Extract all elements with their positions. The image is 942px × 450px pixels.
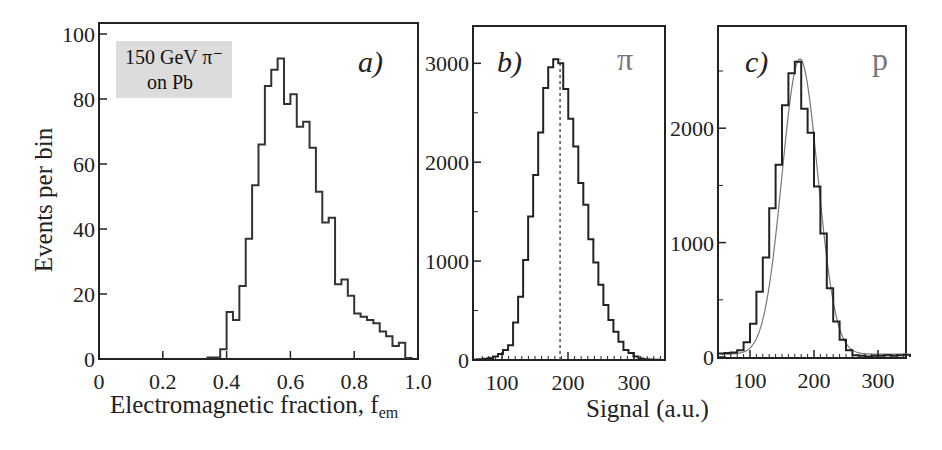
- svg-text:2000: 2000: [425, 150, 469, 175]
- svg-text:2000: 2000: [670, 116, 714, 141]
- annotation-line-2: on Pb: [147, 71, 193, 93]
- panel-b-chart: b) π 1002003000100020003000: [425, 26, 665, 395]
- svg-text:3000: 3000: [425, 51, 469, 76]
- panel-b-particle-label: π: [617, 41, 633, 77]
- svg-text:1000: 1000: [670, 231, 714, 256]
- svg-text:100: 100: [734, 368, 767, 393]
- svg-text:300: 300: [862, 368, 895, 393]
- svg-text:0: 0: [84, 347, 95, 372]
- figure: 150 GeV π⁻ on Pb a) 00.20.40.60.81.00204…: [0, 0, 942, 450]
- svg-text:100: 100: [62, 22, 95, 47]
- svg-text:300: 300: [618, 370, 651, 395]
- svg-text:1.0: 1.0: [404, 369, 432, 394]
- y-axis-title: Events per bin: [30, 127, 57, 272]
- panel-c-chart: c) p 100200300010002000: [670, 26, 910, 393]
- panel-c-label: c): [745, 45, 768, 79]
- x-axis-title-signal: Signal (a.u.): [586, 395, 709, 423]
- svg-text:40: 40: [73, 217, 95, 242]
- svg-text:0: 0: [458, 348, 469, 373]
- svg-text:20: 20: [73, 282, 95, 307]
- panel-b-histogram: [473, 59, 664, 360]
- x-axis-title-a: Electromagnetic fraction, fem: [110, 391, 399, 421]
- svg-text:200: 200: [552, 370, 585, 395]
- svg-text:1000: 1000: [425, 249, 469, 274]
- panel-b-label: b): [497, 45, 522, 79]
- svg-text:200: 200: [798, 368, 831, 393]
- svg-text:80: 80: [73, 87, 95, 112]
- panel-c-histogram: [718, 62, 910, 357]
- panel-c-ticks: 100200300010002000: [670, 71, 904, 393]
- svg-text:0: 0: [94, 369, 105, 394]
- annotation-line-1: 150 GeV π⁻: [125, 46, 223, 68]
- svg-text:60: 60: [73, 152, 95, 177]
- svg-text:100: 100: [486, 370, 519, 395]
- panel-c-particle-label: p: [872, 41, 888, 77]
- panel-a-histogram: [207, 58, 411, 359]
- panel-c-gaussian-fit: [721, 59, 907, 354]
- panel-a-label: a): [358, 45, 383, 79]
- svg-text:0: 0: [703, 345, 714, 370]
- panel-a-chart: 150 GeV π⁻ on Pb a) 00.20.40.60.81.00204…: [30, 22, 432, 421]
